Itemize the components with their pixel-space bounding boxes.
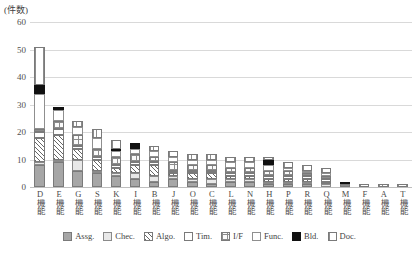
legend-label: Algo. [156, 232, 175, 241]
bar-column[interactable] [130, 143, 141, 187]
x-axis-label: N機能 [245, 189, 254, 216]
bar-column[interactable] [72, 121, 83, 187]
light-grey-swatch [103, 232, 112, 241]
bar-segment [72, 127, 83, 135]
x-axis-label: M機能 [341, 189, 350, 216]
x-axis-label: T機能 [398, 189, 407, 216]
bar-column[interactable] [397, 184, 408, 187]
bar-segment [206, 184, 217, 187]
bar-column[interactable] [149, 146, 160, 187]
bar-segment [72, 171, 83, 188]
bar-segment [72, 160, 83, 171]
bar-segment [130, 154, 141, 162]
stacked-bar-chart: (件数) 0102030405060 D機能E機能G機能S機能K機能I機能B機能… [0, 0, 419, 255]
bar-column[interactable] [92, 129, 103, 187]
bar-segment [53, 121, 64, 129]
legend-item-doc[interactable]: Doc. [328, 232, 356, 241]
solid-black-swatch [292, 232, 301, 241]
legend-item-func[interactable]: Func. [252, 232, 283, 241]
x-axis-label: O機能 [188, 189, 197, 216]
solid-grey-swatch [63, 232, 72, 241]
white-outline-swatch [252, 232, 261, 241]
bar-column[interactable] [187, 154, 198, 187]
bar-segment [283, 184, 294, 187]
x-axis-label: A機能 [379, 189, 388, 216]
bar-segment [378, 184, 389, 187]
bar-column[interactable] [206, 154, 217, 187]
bar-segment [149, 165, 160, 176]
bar-segment [244, 182, 255, 188]
plot-area [30, 22, 412, 187]
bar-segment [53, 135, 64, 160]
bar-column[interactable] [111, 140, 122, 187]
y-tick-label-60: 60 [17, 18, 26, 27]
bar-column[interactable] [359, 184, 370, 187]
x-axis-label: L機能 [226, 189, 235, 216]
x-axis-label: D機能 [35, 189, 44, 216]
bar-segment [321, 184, 332, 187]
bar-segment [34, 47, 45, 86]
bar-segment [53, 162, 64, 187]
legend-label: Doc. [340, 232, 356, 241]
bar-column[interactable] [244, 157, 255, 187]
x-axis-label: P機能 [283, 189, 292, 216]
x-axis-label: C機能 [207, 189, 216, 216]
bar-column[interactable] [168, 151, 179, 187]
bar-column[interactable] [225, 157, 236, 187]
bar-segment [92, 149, 103, 157]
x-axis-label: F機能 [360, 189, 369, 216]
cross-grid-swatch [221, 232, 230, 241]
legend-item-tim[interactable]: Tim. [184, 232, 212, 241]
legend-item-if[interactable]: I/F [221, 232, 243, 241]
bar-segment [225, 182, 236, 188]
legend-label: Func. [264, 232, 283, 241]
bar-segment [111, 140, 122, 148]
bar-segment [34, 94, 45, 130]
x-axis-category-labels: D機能E機能G機能S機能K機能I機能B機能J機能O機能C機能L機能N機能H機能P… [30, 189, 412, 229]
bar-segment [72, 135, 83, 146]
x-axis-label: K機能 [111, 189, 120, 216]
bar-segment [263, 184, 274, 187]
legend-item-algo[interactable]: Algo. [144, 232, 175, 241]
vertical-stripe-swatch [328, 232, 337, 241]
legend-item-chec[interactable]: Chec. [103, 232, 135, 241]
bar-column[interactable] [34, 47, 45, 187]
y-tick-label-10: 10 [17, 155, 26, 164]
gridline-0 [30, 187, 412, 188]
x-axis-label: H機能 [264, 189, 273, 216]
x-axis-label: J機能 [169, 189, 178, 216]
bar-segment [187, 182, 198, 188]
y-axis-tick-labels: 0102030405060 [0, 22, 26, 187]
legend-item-assg[interactable]: Assg. [63, 232, 94, 241]
y-tick-label-30: 30 [17, 100, 26, 109]
bar-column[interactable] [378, 184, 389, 187]
x-axis-label: R機能 [302, 189, 311, 216]
legend-label: Bld. [304, 232, 318, 241]
bar-segment [111, 157, 122, 165]
x-axis-label: B機能 [150, 189, 159, 216]
bar-column[interactable] [340, 182, 351, 188]
bar-column[interactable] [283, 162, 294, 187]
bar-segment [130, 179, 141, 187]
bar-segment [397, 184, 408, 187]
bar-segment [168, 162, 179, 170]
legend-label: I/F [233, 232, 243, 241]
diagonal-hatch-swatch [144, 232, 153, 241]
y-tick-label-40: 40 [17, 73, 26, 82]
bar-segment [302, 184, 313, 187]
bar-segment [149, 182, 160, 188]
bar-segment [359, 184, 370, 187]
bar-column[interactable] [263, 157, 274, 187]
bar-column[interactable] [302, 165, 313, 187]
bar-column[interactable] [321, 168, 332, 187]
y-tick-label-50: 50 [17, 45, 26, 54]
white-swatch [184, 232, 193, 241]
bar-segment [111, 176, 122, 187]
bar-segment [92, 160, 103, 171]
x-axis-label: I機能 [131, 189, 140, 216]
bar-column[interactable] [53, 107, 64, 187]
bar-segment [72, 149, 83, 160]
legend-item-bld[interactable]: Bld. [292, 232, 318, 241]
x-axis-label: E機能 [54, 189, 63, 216]
y-tick-label-0: 0 [22, 183, 27, 192]
